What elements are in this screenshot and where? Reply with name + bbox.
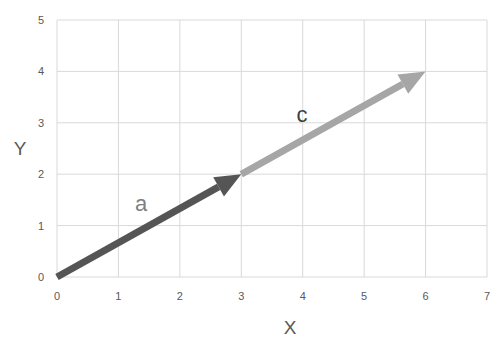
x-tick-label: 1 <box>115 290 121 302</box>
y-tick-label: 4 <box>38 65 44 77</box>
x-tick-label: 6 <box>423 290 429 302</box>
y-axis-ticks: 012345 <box>38 14 44 283</box>
y-tick-label: 0 <box>38 271 44 283</box>
x-axis-ticks: 01234567 <box>54 290 490 302</box>
x-tick-label: 7 <box>484 290 490 302</box>
vector-c-shaft <box>241 84 403 174</box>
chart: 01234567 012345 X Y a c <box>0 0 504 349</box>
x-tick-label: 3 <box>238 290 244 302</box>
x-tick-label: 0 <box>54 290 60 302</box>
y-tick-label: 1 <box>38 220 44 232</box>
x-tick-label: 2 <box>177 290 183 302</box>
vector-c-label: c <box>297 102 308 127</box>
y-tick-label: 5 <box>38 14 44 26</box>
x-tick-label: 5 <box>361 290 367 302</box>
y-tick-label: 2 <box>38 168 44 180</box>
y-tick-label: 3 <box>38 117 44 129</box>
y-axis-title: Y <box>14 138 27 159</box>
vector-a-label: a <box>135 191 148 216</box>
x-axis-title: X <box>284 317 297 338</box>
x-tick-label: 4 <box>300 290 306 302</box>
